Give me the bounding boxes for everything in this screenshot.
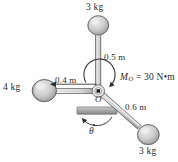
angular-velocity-arc xyxy=(84,117,113,126)
moment-unit: N•m xyxy=(154,72,175,82)
rod-top-vertical xyxy=(96,33,101,90)
mass-left-4kg xyxy=(32,80,56,102)
moment-symbol: M xyxy=(120,72,128,82)
moment-equals: = xyxy=(133,72,144,82)
label-mass-top: 3 kg xyxy=(86,3,103,13)
label-dimension-lower-right-rod: 0.6 m xyxy=(125,103,147,112)
mass-top-3kg xyxy=(88,16,109,35)
mechanics-diagram: 3 kg 4 kg 3 kg 0.5 m 0.4 m 0.6 m MO = 30… xyxy=(0,0,178,162)
label-mass-left: 4 kg xyxy=(3,83,20,93)
ground-support xyxy=(77,107,117,114)
mass-bottom-right-3kg xyxy=(137,125,159,145)
moment-magnitude: 30 xyxy=(144,72,154,82)
label-pivot-O: O xyxy=(95,95,102,104)
label-applied-moment: MO = 30 N•m xyxy=(120,73,175,83)
label-angular-velocity: θ xyxy=(89,127,94,137)
label-dimension-top-rod: 0.5 m xyxy=(104,53,126,62)
label-dimension-left-rod: 0.4 m xyxy=(55,76,77,85)
label-mass-bottom-right: 3 kg xyxy=(139,147,156,157)
